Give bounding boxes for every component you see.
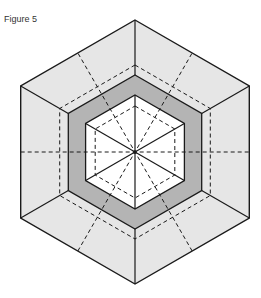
hexagon-fold-diagram xyxy=(0,0,261,298)
center-point xyxy=(133,150,137,154)
